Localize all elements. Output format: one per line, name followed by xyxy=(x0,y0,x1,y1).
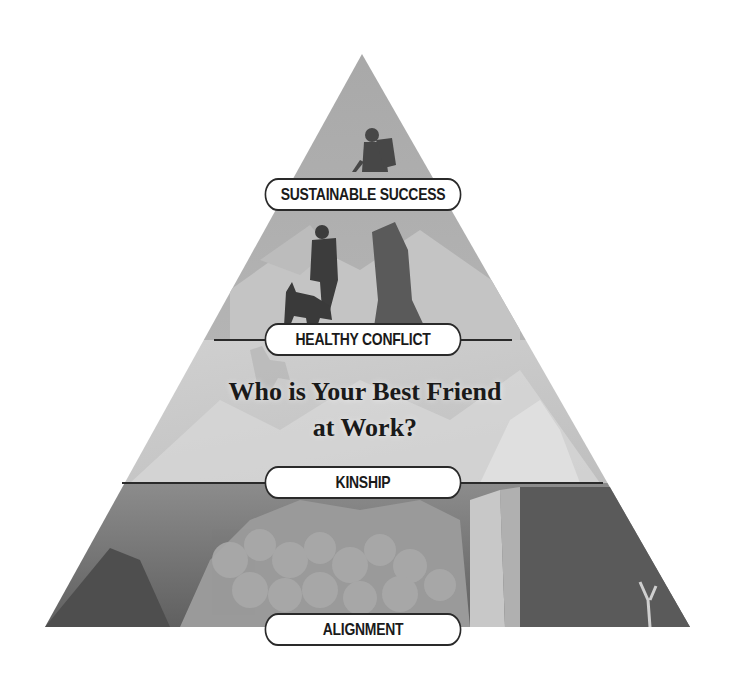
level-pill-alignment: ALIGNMENT xyxy=(265,613,462,646)
diagram-title: Who is Your Best Friend at Work? xyxy=(200,374,530,446)
level-label: ALIGNMENT xyxy=(323,620,404,640)
pyramid-diagram: SUSTAINABLE SUCCESS HEALTHY CONFLICT KIN… xyxy=(0,0,734,689)
level-label: HEALTHY CONFLICT xyxy=(296,330,431,350)
level-pill-sustainable-success: SUSTAINABLE SUCCESS xyxy=(265,178,462,211)
level-label: SUSTAINABLE SUCCESS xyxy=(281,185,446,205)
level-pill-kinship: KINSHIP xyxy=(265,466,462,499)
level-label: KINSHIP xyxy=(336,473,391,493)
level-pill-healthy-conflict: HEALTHY CONFLICT xyxy=(265,323,462,356)
title-line-2: at Work? xyxy=(200,410,530,446)
title-line-1: Who is Your Best Friend xyxy=(200,374,530,410)
